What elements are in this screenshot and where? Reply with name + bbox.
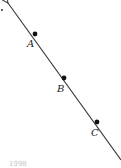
point-c-label: C — [91, 127, 99, 138]
point-c: C — [91, 120, 99, 138]
point-a: A — [26, 32, 37, 49]
point-c-dot — [95, 120, 100, 125]
line — [8, 3, 121, 160]
point-b-label: B — [56, 83, 64, 94]
point-a-label: A — [26, 38, 34, 49]
point-a-dot — [33, 32, 38, 37]
point-b-dot — [62, 76, 67, 81]
footer-year: 1998 — [9, 160, 27, 168]
stray-dot — [1, 9, 3, 11]
line-diagram: A B C 1998 — [0, 0, 121, 168]
point-b: B — [56, 76, 66, 94]
